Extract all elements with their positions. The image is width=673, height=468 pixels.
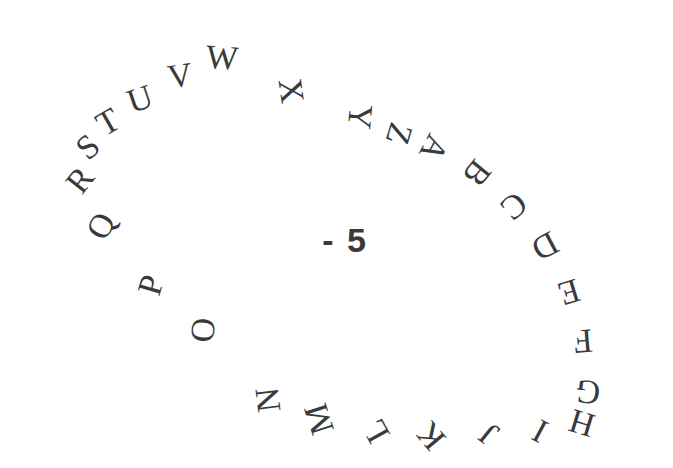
ring-letter-m: M	[298, 399, 340, 438]
ring-letter-e: E	[554, 273, 584, 312]
ring-letter-j: J	[473, 417, 505, 452]
ring-letter-b: B	[457, 153, 498, 192]
ring-letter-i: I	[527, 413, 553, 448]
ring-letter-w: W	[205, 40, 239, 76]
ring-letter-o: O	[185, 316, 221, 343]
ring-letter-q: Q	[80, 207, 121, 244]
ring-letter-r: R	[60, 161, 101, 200]
ring-letter-l: L	[356, 414, 396, 449]
ring-letter-u: U	[123, 79, 157, 119]
ring-letter-f: F	[572, 323, 594, 359]
ring-letter-s: S	[70, 128, 107, 166]
center-offset-value: - 5	[322, 223, 368, 257]
alphabet-ring-figure: ABCDEFGHIJKLMNOPQRSTUVWXYZ - 5	[0, 0, 673, 468]
ring-letter-a: A	[413, 129, 455, 167]
ring-letter-h: H	[565, 403, 598, 443]
ring-letter-y: Y	[342, 103, 378, 130]
ring-letter-x: X	[272, 76, 309, 105]
ring-letter-n: N	[250, 386, 287, 415]
ring-letter-t: T	[91, 102, 126, 142]
ring-letter-p: P	[132, 271, 170, 299]
ring-letter-k: K	[410, 416, 452, 457]
ring-letter-c: C	[494, 186, 533, 227]
ring-letter-v: V	[165, 57, 194, 94]
ring-letter-d: D	[526, 225, 564, 267]
ring-letter-z: Z	[380, 119, 419, 149]
